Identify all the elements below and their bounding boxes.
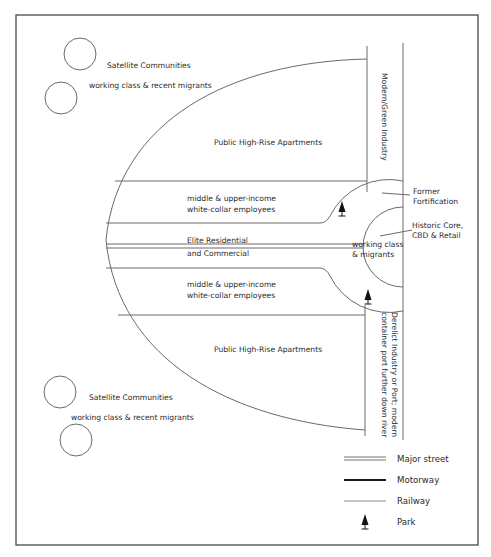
legend: Major street Motorway Railway Park (344, 454, 449, 529)
elite-residential-line2: and Commercial (187, 249, 249, 258)
derelict-industry-line1: Derelict Industry or Port; modern (390, 312, 399, 437)
legend-label-motorway: Motorway (397, 475, 439, 485)
ring-line-2 (106, 216, 330, 223)
satellite-bottom-subtitle: working class & recent migrants (71, 413, 194, 422)
satellite-top-subtitle: working class & recent migrants (89, 81, 212, 90)
fortification-line1: Former (413, 187, 441, 196)
public-housing-top-label: Public High-Rise Apartments (214, 138, 322, 147)
fortification-line2: Fortification (413, 197, 458, 206)
park-icon (365, 289, 372, 304)
urban-model-diagram: Satellite Communities working class & re… (0, 0, 491, 557)
historic-core-line2: CBD & Retail (412, 231, 461, 240)
legend-label-railway: Railway (397, 496, 430, 506)
ring-line-3 (106, 268, 330, 276)
legend-label-major-street: Major street (397, 454, 449, 464)
middle-income-bottom-line2: white-collar employees (187, 291, 275, 300)
park-icon (339, 201, 346, 216)
satellite-top-title: Satellite Communities (107, 61, 191, 70)
core-inner-line1: working class (352, 240, 403, 249)
satellite-bottom-title: Satellite Communities (89, 393, 173, 402)
public-housing-bottom-label: Public High-Rise Apartments (214, 345, 322, 354)
park-icon (362, 514, 369, 529)
derelict-industry-line2: container port further down river (380, 312, 389, 438)
middle-income-bottom-line1: middle & upper-income (187, 280, 276, 289)
middle-income-top-line1: middle & upper-income (187, 194, 276, 203)
legend-item-motorway: Motorway (344, 475, 439, 485)
core-inner-line2: & migrants (352, 250, 394, 259)
fortification-callout-line (382, 193, 410, 195)
satellite-communities-top (45, 38, 96, 114)
historic-core-line1: Historic Core, (412, 221, 463, 230)
legend-label-park: Park (397, 517, 416, 527)
legend-item-major-street: Major street (344, 454, 449, 464)
historic-core-callout-line (380, 230, 412, 236)
legend-item-park: Park (362, 514, 416, 529)
modern-industry-label: Modern/Green Industry (380, 73, 389, 161)
middle-income-top-line2: white-collar employees (187, 205, 275, 214)
legend-item-railway: Railway (344, 496, 430, 506)
elite-residential-line1: Elite Residential (187, 236, 248, 245)
